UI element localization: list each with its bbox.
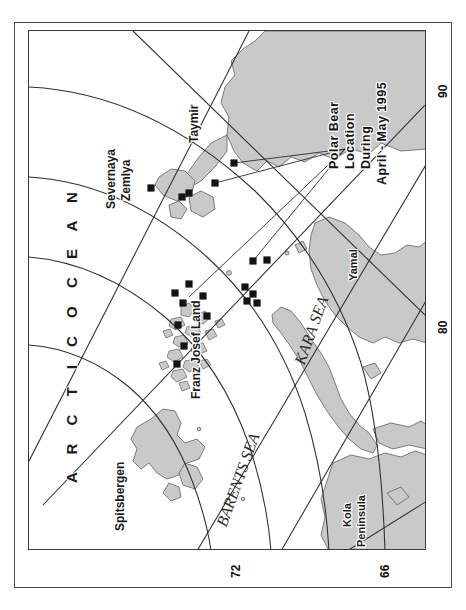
land-severnaya-zemlya-2	[189, 191, 215, 217]
data-point-marker	[185, 189, 192, 196]
land-spitsbergen-east	[179, 463, 203, 489]
place-label-severnaya: Severnaya	[104, 149, 118, 209]
data-point-marker	[171, 289, 178, 296]
data-point-marker	[147, 184, 154, 191]
place-label-franz-josef-land: Franz Josef Land	[189, 300, 203, 399]
axis-label-90: 90	[436, 85, 450, 98]
data-point-marker	[178, 193, 185, 200]
land-spitsbergen-small	[163, 483, 181, 501]
data-point-marker	[199, 292, 206, 299]
data-point-marker	[174, 321, 181, 328]
data-point-marker	[263, 256, 270, 263]
land-dot-2	[197, 427, 201, 431]
title-line-4: April - May 1995	[375, 82, 389, 185]
data-point-marker	[249, 257, 256, 264]
data-point-marker	[243, 297, 250, 304]
data-point-marker	[173, 360, 180, 367]
place-label-kola: Kola	[341, 503, 353, 527]
ocean-label: A R C T I C O C E A N	[63, 185, 80, 483]
data-point-marker	[249, 290, 256, 297]
title-line-2: Location	[343, 113, 357, 169]
map-neatline-frame: A R C T I C O C E A N BARENTS SEA KARA S…	[28, 30, 426, 550]
data-point-marker	[241, 283, 248, 290]
place-label-spitsbergen: Spitsbergen	[113, 462, 127, 531]
data-point-marker	[179, 299, 186, 306]
axis-label-72: 72	[229, 565, 243, 578]
land-kola-north-coast	[373, 421, 426, 449]
land-yamal	[309, 217, 426, 343]
map-title-block: Polar Bear Location During April - May 1…	[317, 77, 426, 187]
data-point-marker	[180, 342, 187, 349]
land-island-small-c	[295, 241, 307, 253]
data-point-marker	[230, 159, 237, 166]
land-dot-3	[241, 497, 245, 501]
place-label-peninsula: Peninsula	[355, 495, 367, 547]
data-point-marker	[253, 299, 260, 306]
land-kola-peninsula	[321, 451, 426, 550]
axis-label-80: 80	[436, 321, 450, 334]
place-label-zemlya: Zemlya	[119, 160, 133, 201]
land-island-small-a	[363, 363, 381, 379]
land-dot-1	[227, 271, 232, 276]
data-point-marker	[211, 179, 218, 186]
data-point-marker	[185, 280, 192, 287]
title-line-1: Polar Bear	[327, 101, 341, 169]
data-point-marker	[203, 312, 210, 319]
place-label-yamal: Yamal	[347, 249, 359, 281]
land-severnaya-zemlya-3	[169, 201, 187, 219]
title-line-3: During	[359, 126, 373, 169]
axis-label-66: 66	[378, 565, 392, 578]
place-label-taymir: Taymir	[187, 105, 201, 143]
figure-page: A R C T I C O C E A N BARENTS SEA KARA S…	[0, 0, 466, 610]
